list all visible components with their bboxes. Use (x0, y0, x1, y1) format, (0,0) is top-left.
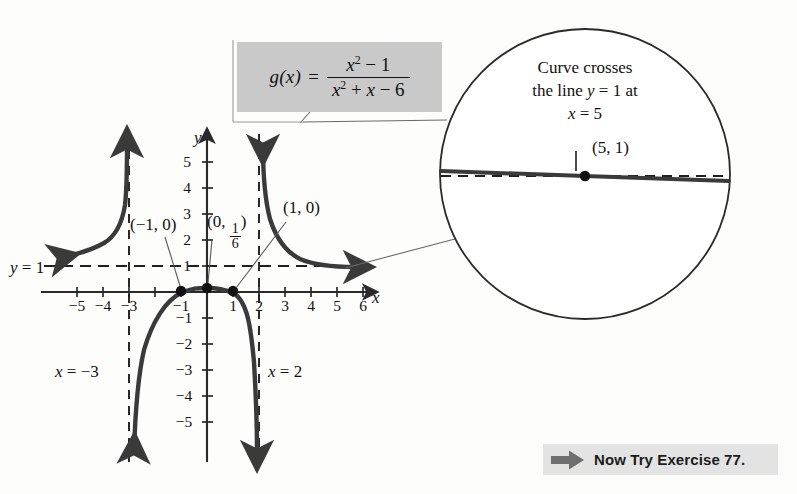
label-point-neg1-0: (−1, 0) (130, 215, 176, 235)
inset-leader-bottom (345, 235, 470, 268)
curve-branch-left (60, 146, 127, 258)
y-tick-label-3: 3 (176, 205, 198, 223)
y-tick-label-neg5: −5 (170, 413, 198, 431)
label-horizontal-asymptote: y = 1 (10, 258, 44, 278)
figure-root: g(x) = x2 − 1 x2 + x − 6 y x −5 −4 −3 −1… (0, 0, 797, 494)
y-tick-label-neg3: −3 (170, 361, 198, 379)
y-axis-label: y (194, 128, 202, 148)
label-point-0-onesixth: (0, 16) (207, 212, 246, 252)
inset-point-5-1 (580, 171, 590, 181)
x-tick-label-4: 4 (300, 297, 322, 315)
right-arrow-icon (551, 450, 585, 470)
point-neg1-0 (176, 286, 186, 296)
y-tick-label-neg4: −4 (170, 387, 198, 405)
label-point-0-onesixth-prefix: (0, (207, 212, 230, 231)
inset-caption-line-1: Curve crosses (435, 57, 735, 80)
y-tick-label-1: 1 (176, 257, 198, 275)
y-tick-label-2: 2 (176, 231, 198, 249)
label-vertical-asymptote-left: x = −3 (55, 362, 99, 382)
y-tick-label-5: 5 (176, 153, 198, 171)
x-tick-label-neg4: −4 (89, 297, 117, 315)
label-point-1-0: (1, 0) (283, 198, 320, 218)
fraction-denominator: 6 (230, 236, 241, 251)
inset-caption: Curve crosses the line y = 1 at x = 5 (435, 57, 735, 125)
formula-numerator: x2 − 1 (341, 54, 395, 77)
x-tick-label-1: 1 (222, 297, 244, 315)
x-tick-label-neg5: −5 (63, 297, 91, 315)
formula-lhs: g(x) (269, 66, 301, 88)
formula-box: g(x) = x2 − 1 x2 + x − 6 (237, 42, 442, 112)
inset-leader-top (303, 120, 447, 122)
inset-caption-line-2: the line y = 1 at (435, 80, 735, 103)
x-tick-label-5: 5 (326, 297, 348, 315)
inset-caption-line-3: x = 5 (435, 103, 735, 126)
now-try-banner[interactable]: Now Try Exercise 77. (543, 444, 778, 475)
y-tick-label-4: 4 (176, 179, 198, 197)
x-tick-label-2: 2 (248, 297, 270, 315)
x-tick-label-3: 3 (274, 297, 296, 315)
formula-fraction: x2 − 1 x2 + x − 6 (327, 54, 410, 100)
inset-point-label: (5, 1) (592, 138, 629, 158)
fraction-numerator: 1 (230, 222, 241, 236)
y-tick-label-neg1: −1 (170, 309, 198, 327)
now-try-label: Now Try Exercise 77. (594, 451, 745, 468)
point-0-onesixth (202, 283, 212, 293)
formula-expression: g(x) = x2 − 1 x2 + x − 6 (269, 54, 409, 100)
x-tick-label-neg3: −3 (115, 297, 143, 315)
label-vertical-asymptote-right: x = 2 (268, 362, 302, 382)
formula-denominator: x2 + x − 6 (327, 77, 410, 101)
y-tick-label-neg2: −2 (170, 335, 198, 353)
formula-equals: = (308, 66, 319, 88)
label-fraction-one-sixth: 16 (230, 222, 241, 252)
x-tick-label-6: 6 (352, 297, 374, 315)
label-point-0-onesixth-suffix: ) (241, 212, 247, 231)
